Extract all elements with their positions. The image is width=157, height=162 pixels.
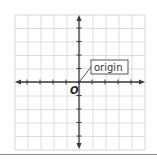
x-axis-right-arrow-icon <box>139 80 145 85</box>
x-axis-left-arrow-icon <box>15 80 21 85</box>
origin-label: O <box>70 85 79 96</box>
y-axis-down-arrow-icon <box>77 143 82 149</box>
coordinate-plane-diagram: O origin <box>0 0 157 162</box>
bottom-divider <box>0 154 157 155</box>
y-axis-up-arrow-icon <box>77 15 82 21</box>
origin-callout: origin <box>80 60 128 81</box>
callout-text: origin <box>94 62 122 73</box>
